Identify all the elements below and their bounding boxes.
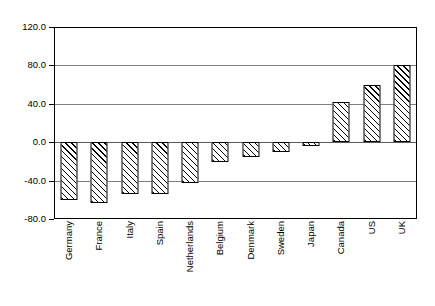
bar-slot <box>175 27 205 219</box>
y-axis-tick-label: 0.0 <box>33 137 46 147</box>
bars-layer <box>54 27 417 219</box>
x-axis-tick-label: Italy <box>125 221 135 238</box>
bar <box>272 142 289 152</box>
bar-slot <box>205 27 235 219</box>
x-axis: GermanyFranceItalySpainNetherlandsBelgiu… <box>54 221 417 306</box>
bar-slot <box>84 27 114 219</box>
bar-slot <box>357 27 387 219</box>
bar <box>121 142 138 194</box>
bar <box>91 142 108 202</box>
y-axis-tick-mark <box>49 219 54 220</box>
x-axis-tick-label: Canada <box>336 221 346 254</box>
bar <box>363 85 380 143</box>
x-axis-tick-label: Belgium <box>215 221 225 255</box>
y-axis-tick-label: 80.0 <box>28 61 47 71</box>
x-axis-tick-label: Japan <box>306 221 316 247</box>
bar <box>151 142 168 194</box>
x-axis-tick-label: Germany <box>64 221 74 260</box>
bar-slot <box>326 27 356 219</box>
x-axis-tick-label: France <box>94 221 104 251</box>
bar <box>333 102 350 142</box>
x-axis-tick-label: Sweden <box>276 221 286 255</box>
bar <box>393 65 410 142</box>
bar-slot <box>296 27 326 219</box>
y-axis-tick-label: 120.0 <box>22 22 46 32</box>
bar-slot <box>145 27 175 219</box>
y-axis-tick-label: 40.0 <box>28 99 47 109</box>
x-axis-tick-label: UK <box>397 221 407 234</box>
x-axis-tick-label: Denmark <box>246 221 256 260</box>
x-axis-tick-label: Netherlands <box>185 221 195 272</box>
bar-chart: 120.080.040.00.0-40.0-80.0 GermanyFrance… <box>0 0 435 306</box>
y-axis-tick-label: -80.0 <box>24 214 46 224</box>
bar-slot <box>266 27 296 219</box>
y-axis-tick-label: -40.0 <box>24 176 46 186</box>
bar-slot <box>236 27 266 219</box>
x-axis-tick-label: Spain <box>155 221 165 245</box>
bar-slot <box>54 27 84 219</box>
bar <box>242 142 259 156</box>
bar-slot <box>387 27 417 219</box>
bar <box>182 142 199 182</box>
x-axis-tick-label: US <box>367 221 377 234</box>
bar <box>212 142 229 162</box>
bar <box>61 142 78 200</box>
y-axis: 120.080.040.00.0-40.0-80.0 <box>0 0 54 306</box>
bar <box>303 142 320 146</box>
bar-slot <box>115 27 145 219</box>
